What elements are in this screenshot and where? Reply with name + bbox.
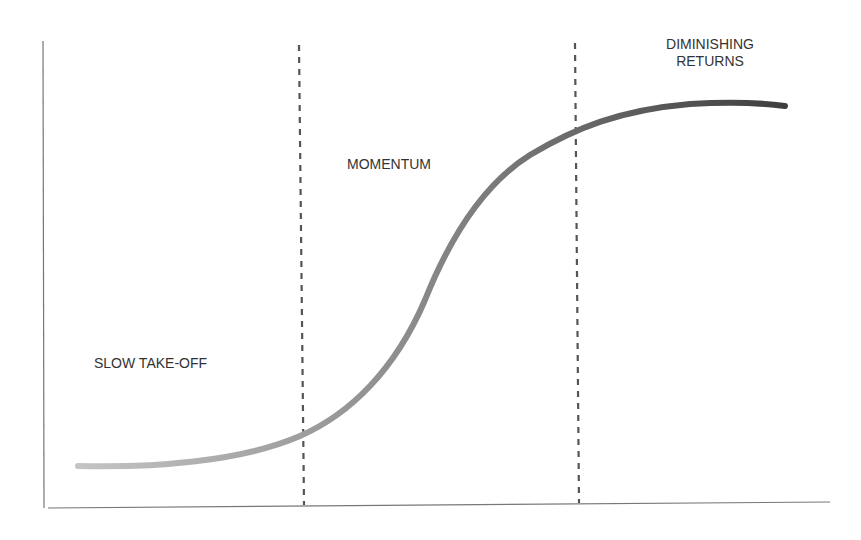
x-axis bbox=[48, 502, 830, 508]
phase-label-diminishing-returns: DIMINISHING RETURNS bbox=[650, 36, 770, 70]
s-curve-diagram bbox=[0, 0, 861, 540]
y-axis bbox=[43, 41, 44, 508]
s-curve-line bbox=[78, 103, 785, 467]
divider-line-2 bbox=[575, 43, 579, 503]
phase-label-momentum: MOMENTUM bbox=[347, 156, 431, 173]
phase-label-slow-take-off: SLOW TAKE-OFF bbox=[94, 355, 207, 372]
